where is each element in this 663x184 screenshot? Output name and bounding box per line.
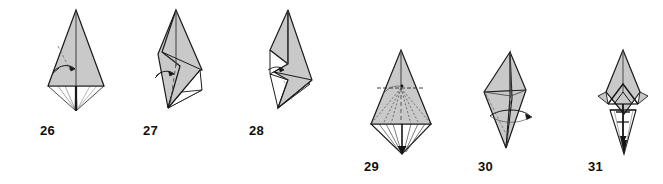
step-label-31: 31 (588, 160, 603, 173)
paper-front-left-gray (484, 52, 510, 148)
wing-sliver-left (598, 92, 608, 104)
figure-step-27 (140, 8, 230, 118)
figure-step-30 (470, 48, 556, 158)
figure-step-29 (355, 48, 451, 158)
step-label-26: 26 (40, 124, 55, 137)
step-label-28: 28 (249, 124, 264, 137)
figure-step-31 (588, 48, 658, 158)
wing-sliver-right (638, 92, 648, 104)
fold-point-marker (401, 85, 404, 88)
flap-right-white (76, 86, 104, 110)
diagram-canvas: 26 27 (0, 0, 663, 184)
step-label-30: 30 (478, 160, 493, 173)
flap-left-white (48, 86, 76, 110)
figure-step-26 (28, 8, 124, 118)
arrow-tail (155, 72, 161, 78)
figure-step-28 (248, 8, 340, 118)
step-label-27: 27 (143, 124, 158, 137)
step-label-29: 29 (364, 160, 379, 173)
